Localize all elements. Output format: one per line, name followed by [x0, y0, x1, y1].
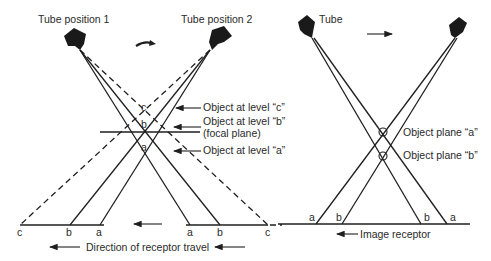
tube-position-2-label: Tube position 2 [181, 13, 253, 25]
object-level-a-label: Object at level “a” [203, 144, 286, 156]
receptor-right-label-a: a [187, 226, 193, 238]
level-a-marker: a [141, 141, 147, 153]
multiplane-diagram: Tube Object plane “a” Object plane “b” a… [278, 13, 478, 240]
level-c-marker: c [141, 101, 146, 113]
receptor-right-label-c: c [265, 226, 270, 238]
receptor-left-label-a: a [96, 226, 102, 238]
x-ray-tube-icon [209, 26, 232, 50]
receptor-travel-caption: Direction of receptor travel [86, 241, 209, 253]
object-plane-a-label: Object plane “a” [403, 126, 478, 138]
object-level-c-label: Object at level “c” [203, 101, 285, 113]
object-plane-b-label: Object plane “b” [403, 149, 478, 161]
receptor-left-label-b: b [66, 226, 72, 238]
receptor-left-label-b: b [336, 211, 342, 223]
tube-label: Tube [319, 13, 343, 25]
receptor-left-label-c: c [17, 226, 22, 238]
receptor-right-label-b: b [424, 211, 430, 223]
object-level-b-label: Object at level “b” [203, 115, 286, 127]
tube-position-1-label: Tube position 1 [38, 13, 110, 25]
tomography-diagram: Tube position 1 Tube position 2 c b a Ob… [0, 0, 491, 261]
receptor-right-label-a: a [450, 211, 456, 223]
level-b-marker: b [141, 118, 147, 130]
receptor-right-label-b: b [217, 226, 223, 238]
x-ray-tube-icon [298, 15, 315, 38]
curved-arrow-icon [136, 40, 156, 46]
linear-tomography-diagram: Tube position 1 Tube position 2 c b a Ob… [17, 13, 286, 253]
image-receptor-caption: Image receptor [360, 228, 431, 240]
focal-plane-label: (focal plane) [203, 127, 261, 139]
x-ray-tube-icon [64, 28, 86, 50]
receptor-left-label-a: a [309, 211, 315, 223]
x-ray-tube-icon [449, 17, 467, 38]
